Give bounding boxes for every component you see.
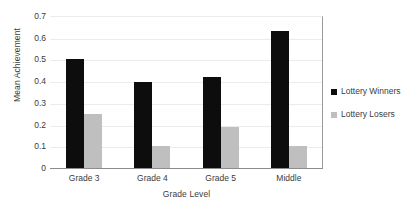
- x-axis-tick-label: Middle: [255, 172, 323, 184]
- y-axis-tick-label: 0.3: [20, 98, 46, 108]
- bars-layer: [50, 16, 323, 168]
- bar-chart-figure: Mean Achievement 00.10.20.30.40.50.60.7 …: [0, 0, 414, 218]
- x-axis-tick-labels: Grade 3Grade 4Grade 5Middle: [50, 172, 323, 186]
- bar-group: [271, 16, 307, 168]
- x-axis-title: Grade Level: [50, 189, 323, 199]
- legend-item[interactable]: Lottery Losers: [331, 109, 413, 120]
- y-axis-tick-label: 0.5: [20, 54, 46, 64]
- bar-group: [134, 16, 170, 168]
- legend-swatch-black-icon: [331, 89, 337, 95]
- bar-lottery-losers[interactable]: [221, 127, 239, 168]
- y-axis-tick-label: 0.2: [20, 120, 46, 130]
- y-axis-tick-labels: 00.10.20.30.40.50.60.7: [20, 11, 46, 169]
- x-axis-line: [50, 168, 323, 169]
- x-axis-tick-label: Grade 4: [118, 172, 186, 184]
- legend-item-label: Lottery Losers: [341, 109, 395, 120]
- bar-lottery-losers[interactable]: [289, 146, 307, 168]
- y-axis-tick-label: 0.7: [20, 11, 46, 21]
- x-axis-tick-label: Grade 3: [50, 172, 118, 184]
- bar-lottery-losers[interactable]: [152, 146, 170, 168]
- y-axis-tick-label: 0.6: [20, 33, 46, 43]
- y-axis-tick-label: 0.4: [20, 76, 46, 86]
- bar-lottery-winners[interactable]: [134, 82, 152, 168]
- y-axis-tick-label: 0: [20, 163, 46, 173]
- chart-legend: Lottery WinnersLottery Losers: [331, 86, 413, 132]
- bar-lottery-winners[interactable]: [203, 77, 221, 168]
- bar-group: [203, 16, 239, 168]
- y-axis-tick-label: 0.1: [20, 141, 46, 151]
- x-axis-tick-label: Grade 5: [187, 172, 255, 184]
- bar-group: [66, 16, 102, 168]
- legend-item-label: Lottery Winners: [341, 86, 401, 97]
- bar-lottery-winners[interactable]: [66, 59, 84, 168]
- bar-lottery-winners[interactable]: [271, 31, 289, 168]
- legend-item[interactable]: Lottery Winners: [331, 86, 413, 97]
- bar-lottery-losers[interactable]: [84, 114, 102, 168]
- legend-swatch-gray-icon: [331, 112, 337, 118]
